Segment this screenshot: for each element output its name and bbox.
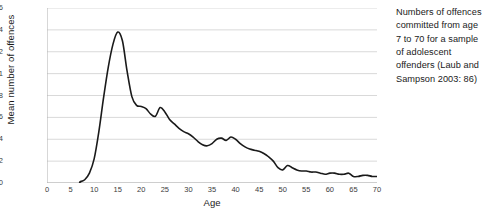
figure: Mean number of offences 00.20.40.60.811.… (0, 0, 483, 215)
y-tick-label: 1 (0, 70, 3, 78)
x-tick-label: 10 (82, 186, 106, 194)
x-tick-label: 20 (129, 186, 153, 194)
y-tick-label: 0.6 (0, 113, 3, 121)
x-tick-label: 45 (247, 186, 271, 194)
y-axis-label: Mean number of offences (5, 4, 16, 136)
gridlines (47, 8, 377, 183)
chart-svg (47, 8, 377, 183)
x-tick-label: 5 (59, 186, 83, 194)
data-line-mean-offences (80, 32, 377, 183)
y-tick-label: 0.4 (0, 135, 3, 143)
x-tick-label: 40 (224, 186, 248, 194)
y-tick-label: 1.6 (0, 4, 3, 12)
y-tick-label: 0.2 (0, 157, 3, 165)
y-tick-label: 0.8 (0, 92, 3, 100)
x-tick-label: 50 (271, 186, 295, 194)
figure-caption: Numbers of offences committed from age 7… (396, 6, 482, 86)
x-tick-label: 25 (153, 186, 177, 194)
x-tick-label: 55 (294, 186, 318, 194)
x-tick-label: 60 (318, 186, 342, 194)
y-tick-label: 1.4 (0, 26, 3, 34)
chart-area: Mean number of offences 00.20.40.60.811.… (0, 0, 385, 215)
x-tick-label: 30 (176, 186, 200, 194)
plot-area (47, 8, 377, 183)
x-tick-label: 15 (106, 186, 130, 194)
x-axis-label: Age (47, 197, 377, 208)
x-tick-label: 35 (200, 186, 224, 194)
y-tick-label: 0 (0, 179, 3, 187)
x-tick-label: 0 (35, 186, 59, 194)
x-tick-label: 65 (341, 186, 365, 194)
y-tick-label: 1.2 (0, 48, 3, 56)
x-tick-label: 70 (365, 186, 389, 194)
